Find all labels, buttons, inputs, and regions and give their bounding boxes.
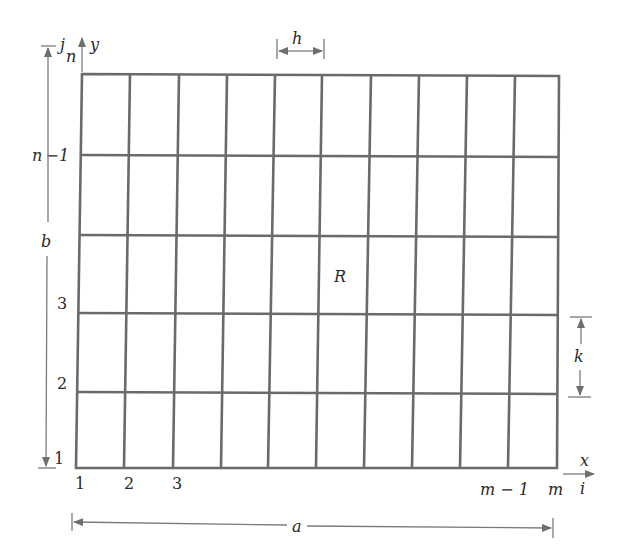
j-index-label: j bbox=[57, 35, 65, 54]
column-label-3: 3 bbox=[172, 474, 182, 493]
finite-difference-grid-diagram: j y x i n n −1 3 2 1 1 2 3 m − 1 m R b h… bbox=[0, 0, 624, 560]
width-label-a: a bbox=[292, 517, 302, 536]
grid-column-line bbox=[364, 75, 371, 468]
row-label-3: 3 bbox=[57, 294, 67, 313]
grid-column-line bbox=[268, 75, 275, 468]
row-label-n-minus-1: n −1 bbox=[32, 146, 69, 165]
grid bbox=[76, 74, 559, 468]
grid-column-line bbox=[316, 75, 322, 468]
width-dimension-a bbox=[72, 513, 553, 538]
grid-column-line bbox=[412, 75, 419, 468]
column-label-m: m bbox=[548, 480, 563, 499]
x-axis-label: x bbox=[580, 451, 589, 470]
grid-column-line bbox=[460, 75, 467, 468]
i-index-label: i bbox=[580, 479, 585, 498]
grid-column-line bbox=[508, 76, 515, 468]
y-axis-label: y bbox=[89, 35, 100, 54]
column-label-2: 2 bbox=[124, 474, 134, 493]
region-label: R bbox=[333, 267, 346, 286]
column-label-1: 1 bbox=[75, 474, 85, 493]
height-label-b: b bbox=[41, 232, 51, 251]
grid-column-line bbox=[124, 74, 130, 468]
row-label-n: n bbox=[66, 47, 76, 66]
row-label-2: 2 bbox=[57, 374, 67, 393]
column-label-m-minus-1: m − 1 bbox=[480, 480, 529, 499]
grid-column-line bbox=[173, 74, 179, 468]
row-label-1: 1 bbox=[54, 449, 64, 468]
cell-width-label-h: h bbox=[292, 29, 302, 48]
grid-column-line bbox=[221, 75, 227, 468]
cell-height-label-k: k bbox=[574, 347, 584, 366]
height-dimension-b bbox=[38, 46, 56, 468]
